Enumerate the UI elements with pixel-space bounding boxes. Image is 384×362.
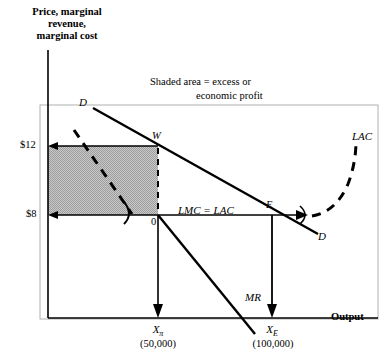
shaded-profit-area: [48, 146, 158, 215]
curve-label-marginal-revenue: MR: [245, 291, 261, 303]
x-label-xpi: Xπ: [138, 323, 178, 339]
curve-label-lac: LAC: [352, 130, 372, 142]
marginal-revenue-curve: [158, 215, 255, 334]
x-label-xe: XE: [252, 323, 292, 339]
x-label-xe-symbol: X: [266, 323, 273, 335]
x-axis-title: Output: [331, 311, 364, 323]
x-label-xpi-subscript: π: [159, 329, 163, 338]
x-value-xe: (100,000): [238, 338, 308, 350]
point-label-w: W: [152, 130, 161, 142]
quantity-line-xe-arrowhead: [267, 304, 277, 318]
lmc-lac-right-arrowhead: [296, 210, 308, 220]
diagram-canvas: [0, 0, 384, 362]
x-label-xe-subscript: E: [273, 329, 278, 338]
x-value-xpi: (50,000): [128, 338, 188, 350]
quantity-line-xpi-arrowhead: [153, 304, 163, 318]
shaded-area-note-line2: economic profit: [196, 90, 263, 102]
curve-label-demand-left: D: [79, 96, 87, 108]
y-axis-title: Price, marginal revenue, marginal cost: [4, 6, 130, 41]
y-tick-12: $12: [20, 139, 36, 151]
point-label-origin: 0: [151, 216, 156, 228]
shaded-area-note-line1: Shaded area = excess or: [150, 76, 251, 88]
economics-diagram: Price, marginal revenue, marginal cost S…: [0, 0, 384, 362]
lac-curve-dashed: [312, 141, 356, 216]
curve-label-lmc-lac: LMC = LAC: [178, 204, 234, 216]
point-label-e: E: [266, 199, 272, 211]
curve-label-demand-right: D: [318, 230, 326, 242]
y-tick-8: $8: [26, 208, 37, 220]
